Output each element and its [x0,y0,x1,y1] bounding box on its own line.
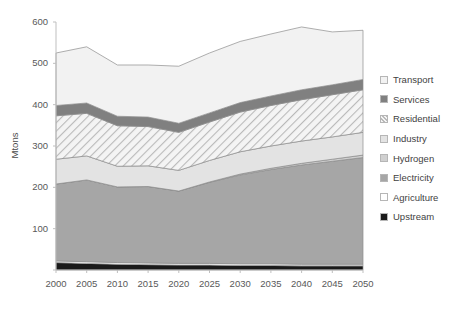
y-tick-label: 400 [14,100,48,110]
legend-item-services[interactable]: Services [380,90,468,110]
legend-item-residential[interactable]: Residential [380,109,468,129]
legend-swatch-icon [380,193,388,201]
legend-swatch-icon [380,95,388,103]
legend-swatch-icon [380,213,388,221]
legend-label: Agriculture [393,192,438,203]
legend-label: Services [393,94,429,105]
legend-swatch-icon [380,115,388,123]
legend-label: Upstream [393,211,434,222]
y-tick-label: 500 [14,58,48,68]
legend-label: Hydrogen [393,153,434,164]
legend-item-industry[interactable]: Industry [380,129,468,149]
legend-label: Residential [393,113,440,124]
legend-label: Transport [393,74,433,85]
legend-item-hydrogen[interactable]: Hydrogen [380,148,468,168]
legend-swatch-icon [380,135,388,143]
legend-swatch-icon [380,174,388,182]
stacked-area-chart: Mtons 100200300400500600 200020052010201… [0,0,468,313]
legend-item-electricity[interactable]: Electricity [380,168,468,188]
legend-label: Electricity [393,172,434,183]
legend-swatch-icon [380,154,388,162]
legend-item-transport[interactable]: Transport [380,70,468,90]
legend-item-upstream[interactable]: Upstream [380,207,468,227]
legend-swatch-icon [380,76,388,84]
legend-label: Industry [393,133,427,144]
y-tick-label: 100 [14,224,48,234]
y-tick-label: 600 [14,17,48,27]
x-tick-label: 2050 [343,279,383,289]
chart-legend: TransportServicesResidentialIndustryHydr… [380,70,468,227]
y-tick-label: 300 [14,141,48,151]
legend-item-agriculture[interactable]: Agriculture [380,188,468,208]
y-tick-label: 200 [14,182,48,192]
